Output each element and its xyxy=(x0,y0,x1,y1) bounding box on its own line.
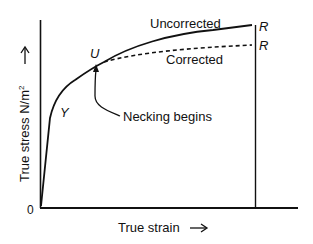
necking-arrow xyxy=(95,70,120,116)
ultimate-point-label: U xyxy=(90,46,100,61)
corrected-label: Corrected xyxy=(166,52,223,67)
origin-label: 0 xyxy=(27,203,34,217)
uncorrected-label: Uncorrected xyxy=(150,16,221,31)
rupture-label-lower: R xyxy=(259,38,268,53)
y-axis-label: True stress N/m2 xyxy=(17,85,32,182)
x-axis-arrow-icon xyxy=(190,224,207,232)
yield-point-label: Y xyxy=(60,105,70,120)
stress-strain-chart: Uncorrected Corrected R R U Y Necking be… xyxy=(0,0,313,244)
necking-label: Necking begins xyxy=(123,109,212,124)
y-axis-arrow-icon xyxy=(21,47,29,64)
x-axis-label: True strain xyxy=(118,220,180,235)
rupture-label-upper: R xyxy=(259,19,268,34)
